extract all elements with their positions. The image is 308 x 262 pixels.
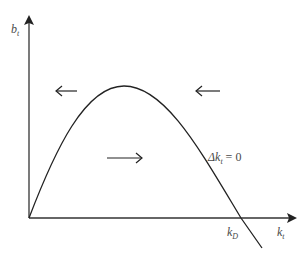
- phase-diagram: bt kt kD Δkt = 0: [0, 0, 308, 262]
- y-axis-label: bt: [11, 22, 20, 38]
- arrow-left-icon: [196, 86, 220, 96]
- arrow-right-icon: [107, 153, 142, 163]
- curve-label: Δkt = 0: [207, 150, 241, 166]
- intercept-label: kD: [227, 225, 238, 241]
- delta-k-zero-curve: [29, 86, 262, 248]
- x-axis-label: kt: [277, 225, 285, 241]
- arrow-left-icon: [56, 86, 77, 96]
